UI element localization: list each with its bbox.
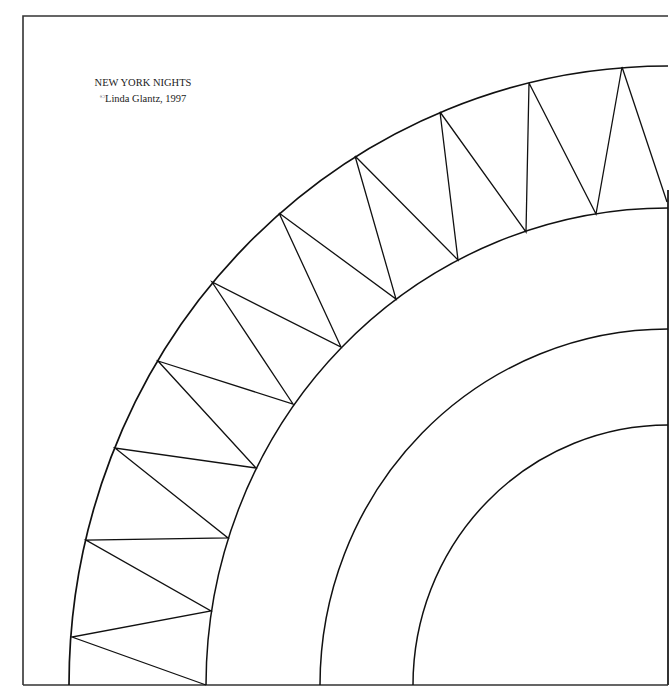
concentric-arcs bbox=[69, 66, 668, 685]
ring-inner-arc bbox=[206, 208, 668, 685]
block-frame bbox=[23, 16, 668, 685]
middle-arc bbox=[320, 329, 668, 685]
outer-arc bbox=[69, 66, 668, 685]
innermost-arc bbox=[413, 425, 668, 685]
flying-geese-zigzag bbox=[72, 67, 667, 685]
pattern-title: NEW YORK NIGHTS bbox=[80, 76, 206, 90]
frame-border bbox=[23, 16, 668, 685]
credit-text: Linda Glantz, 1997 bbox=[105, 93, 186, 104]
copyright-credit: ©Linda Glantz, 1997 bbox=[80, 90, 206, 106]
